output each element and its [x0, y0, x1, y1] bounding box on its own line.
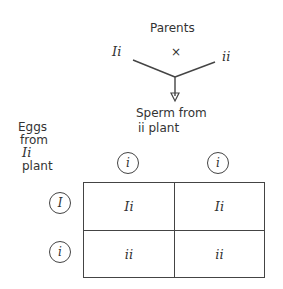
column-allele-circle-2: i	[207, 152, 229, 174]
row-allele-1: I	[58, 196, 63, 210]
sperm-label-line2: ii plant	[138, 121, 179, 135]
right-parent-line	[175, 62, 215, 77]
parents-title: Parents	[150, 21, 195, 35]
eggs-label-line4: plant	[22, 159, 53, 173]
cross-symbol: ×	[171, 45, 181, 59]
row-allele-2: i	[58, 245, 62, 259]
eggs-label-line3: Ii	[22, 146, 31, 160]
eggs-label-line1: Eggs	[18, 120, 47, 134]
column-allele-2: i	[216, 156, 220, 170]
cell-r2-c2: ii	[174, 230, 264, 277]
cell-r1-c2: Ii	[174, 183, 264, 230]
column-allele-circle-1: i	[117, 152, 139, 174]
parent-left-genotype: Ii	[112, 45, 121, 59]
sperm-label-line1: Sperm from	[136, 106, 207, 120]
row-allele-circle-1: I	[49, 192, 71, 214]
punnett-square: Ii Ii ii ii	[83, 182, 265, 278]
cell-r2-c1: ii	[84, 230, 174, 277]
row-allele-circle-2: i	[49, 241, 71, 263]
left-parent-line	[133, 60, 175, 77]
parent-right-genotype: ii	[222, 50, 230, 64]
column-allele-1: i	[126, 156, 130, 170]
cell-r1-c1: Ii	[84, 183, 174, 230]
